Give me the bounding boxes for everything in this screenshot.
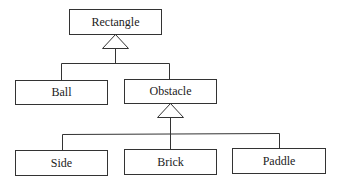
inheritance-triangle-icon bbox=[158, 104, 184, 118]
class-box-paddle: Paddle bbox=[232, 148, 326, 174]
class-label: Obstacle bbox=[150, 84, 192, 99]
class-box-side: Side bbox=[15, 150, 108, 176]
class-label: Brick bbox=[157, 155, 184, 170]
class-label: Ball bbox=[52, 85, 72, 100]
class-box-ball: Ball bbox=[15, 80, 108, 105]
class-label: Side bbox=[51, 156, 72, 171]
inheritance-triangle-icon bbox=[103, 35, 129, 49]
class-box-obstacle: Obstacle bbox=[124, 79, 217, 104]
class-label: Rectangle bbox=[92, 15, 140, 30]
class-label: Paddle bbox=[263, 154, 296, 169]
class-box-rectangle: Rectangle bbox=[69, 9, 162, 35]
class-box-brick: Brick bbox=[124, 149, 217, 175]
